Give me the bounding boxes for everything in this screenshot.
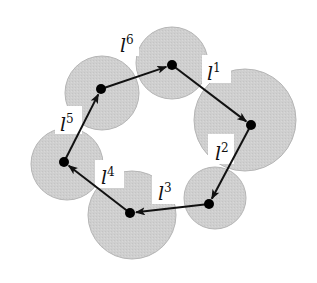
- edge-label-l2: l2: [208, 134, 234, 164]
- node-d: [204, 199, 214, 209]
- edge-label-l3: l3: [152, 174, 180, 204]
- node-b: [167, 60, 177, 70]
- disks: l1l2l3l4l5l6: [31, 27, 296, 259]
- node-c: [246, 120, 256, 130]
- edge-label-l4: l4: [95, 160, 124, 188]
- node-a: [96, 84, 106, 94]
- edge-label-l5: l5: [55, 106, 82, 135]
- edge-label-l1: l1: [202, 55, 231, 84]
- node-e: [125, 208, 135, 218]
- edge-label-l6: l6: [114, 28, 139, 56]
- node-f: [59, 157, 69, 167]
- disk-d: [184, 167, 246, 229]
- disk-cycle-diagram: l1l2l3l4l5l6: [0, 0, 317, 283]
